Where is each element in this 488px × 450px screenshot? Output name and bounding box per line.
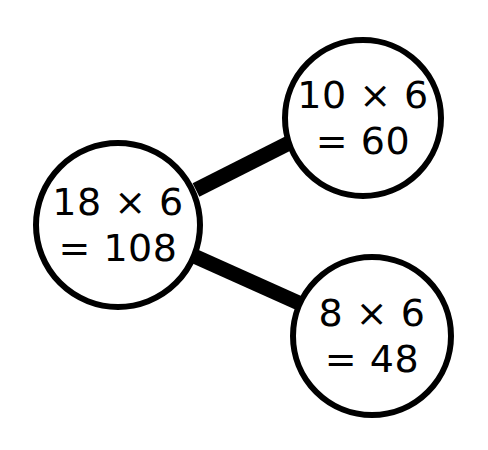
number-bond-diagram: 18 × 6 = 108 10 × 6 = 60 8 × 6 = 48: [0, 0, 488, 450]
node-part-upper[interactable]: 10 × 6 = 60: [285, 40, 441, 196]
node-root-line2: = 108: [59, 226, 178, 270]
node-part-upper-line2: = 60: [316, 119, 410, 163]
node-part-lower-line1: 8 × 6: [319, 291, 426, 335]
node-part-lower-line2: = 48: [325, 337, 419, 381]
node-root-line1: 18 × 6: [52, 180, 184, 224]
node-part-upper-circle[interactable]: [285, 40, 441, 196]
node-root[interactable]: 18 × 6 = 108: [36, 143, 200, 307]
node-part-upper-line1: 10 × 6: [297, 73, 429, 117]
node-part-lower-circle[interactable]: [293, 257, 451, 415]
node-root-circle[interactable]: [36, 143, 200, 307]
node-part-lower[interactable]: 8 × 6 = 48: [293, 257, 451, 415]
diagram-canvas: 18 × 6 = 108 10 × 6 = 60 8 × 6 = 48: [0, 0, 488, 450]
